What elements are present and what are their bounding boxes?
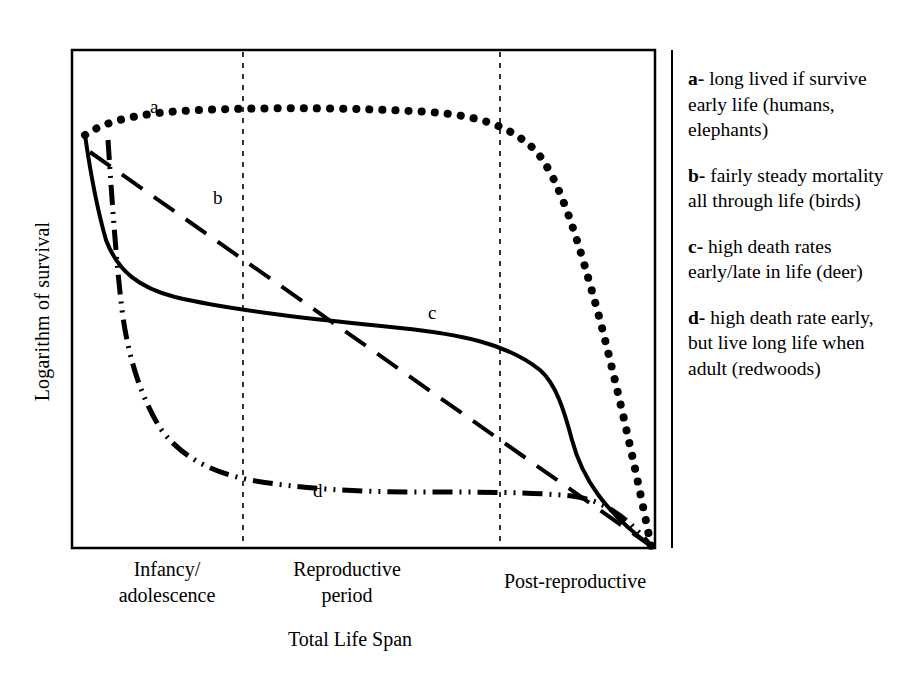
legend-entry-b: b- fairly steady mortality all through l… bbox=[688, 163, 902, 214]
y-axis-title: Logarithm of survival bbox=[31, 152, 54, 472]
x-tick-label-reproductive-line2: period bbox=[252, 582, 442, 608]
legend-text-d: high death rate early, but live long lif… bbox=[688, 307, 874, 379]
legend-key-a: a- bbox=[688, 68, 704, 89]
curve-a-path bbox=[85, 108, 651, 546]
legend-key-b: b- bbox=[688, 165, 705, 186]
x-tick-label-post-reproductive: Post-reproductive bbox=[470, 568, 680, 594]
x-tick-label-infancy-line2: adolescence bbox=[92, 582, 242, 608]
plot-frame bbox=[72, 50, 655, 548]
x-tick-label-infancy: Infancy/ adolescence bbox=[92, 556, 242, 608]
survivorship-curve-figure: Logarithm of survival Infancy/ adolescen… bbox=[0, 0, 912, 696]
legend-entry-d: d- high death rate early, but live long … bbox=[688, 305, 902, 382]
curve-annotation-c: c bbox=[428, 303, 436, 322]
x-tick-label-reproductive: Reproductive period bbox=[252, 556, 442, 608]
curve-annotation-d: d bbox=[313, 481, 323, 500]
legend-key-d: d- bbox=[688, 307, 705, 328]
legend-key-c: c- bbox=[688, 236, 703, 257]
curve-annotation-a: a bbox=[150, 97, 158, 116]
legend-entry-c: c- high death rates early/late in life (… bbox=[688, 234, 902, 285]
curve-annotation-b: b bbox=[213, 188, 223, 207]
legend-text-c: high death rates early/late in life (dee… bbox=[688, 236, 863, 283]
legend-text-a: long lived if survive early life (humans… bbox=[688, 68, 867, 140]
x-tick-label-infancy-line1: Infancy/ bbox=[92, 556, 242, 582]
x-tick-label-post-reproductive-line1: Post-reproductive bbox=[470, 568, 680, 594]
legend: a- long lived if survive early life (hum… bbox=[688, 66, 902, 401]
legend-text-b: fairly steady mortality all through life… bbox=[688, 165, 884, 212]
curve-b-path bbox=[90, 152, 651, 546]
x-tick-label-reproductive-line1: Reproductive bbox=[252, 556, 442, 582]
x-axis-title: Total Life Span bbox=[200, 628, 500, 651]
curve-d-path bbox=[108, 140, 651, 546]
curve-c-path bbox=[85, 135, 651, 546]
legend-entry-a: a- long lived if survive early life (hum… bbox=[688, 66, 902, 143]
